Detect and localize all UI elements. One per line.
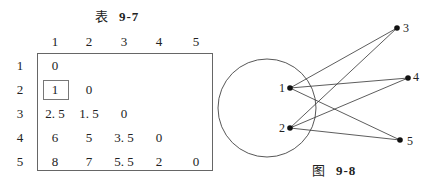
edge-2-5 (290, 128, 400, 140)
edge-1-3 (290, 28, 397, 88)
node-label: 5 (407, 134, 413, 148)
graph-edges (290, 28, 408, 140)
node-1-dot (287, 85, 293, 91)
node-label: 1 (279, 81, 285, 95)
edge-2-4 (290, 78, 408, 128)
node-label: 3 (403, 21, 409, 35)
figure-caption-number: 9-8 (336, 163, 356, 178)
node-label: 2 (279, 121, 285, 135)
edge-1-4 (290, 78, 408, 88)
cluster-graph: 1 2 3 4 5 (0, 0, 434, 188)
node-4-dot (405, 75, 411, 81)
graph-nodes (287, 25, 411, 143)
node-3-dot (394, 25, 400, 31)
node-2-dot (287, 125, 293, 131)
figure-caption: 图9-8 (312, 160, 356, 179)
edge-1-5 (290, 88, 400, 140)
cluster-circle (218, 59, 316, 157)
figure-caption-prefix: 图 (312, 163, 326, 178)
node-5-dot (397, 137, 403, 143)
node-label: 4 (413, 70, 419, 84)
